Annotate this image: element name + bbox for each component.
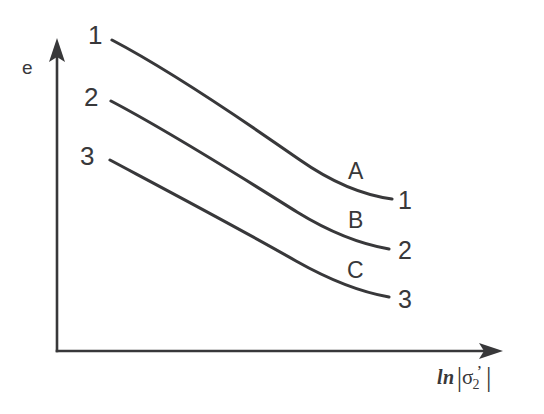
curve-b-end-label: 2 xyxy=(398,238,412,263)
y-axis-label: e xyxy=(22,58,33,77)
figure-canvas: e 1 2 3 A B C 1 2 3 ln|σ2’| xyxy=(0,0,544,414)
x-axis-label-bar-close: | xyxy=(486,362,491,392)
curve-c-start-label: 3 xyxy=(80,143,94,169)
x-axis-label-bar-open: | xyxy=(457,362,462,392)
curve-c-end-label: 3 xyxy=(398,287,412,312)
curve-b-start-label: 2 xyxy=(84,84,98,110)
curve-a-end-label: 1 xyxy=(398,188,412,213)
x-axis-label: ln|σ2’| xyxy=(437,362,492,392)
x-axis-label-prime: ’ xyxy=(476,362,482,381)
curve-c-label: C xyxy=(347,259,364,282)
curve-a-label: A xyxy=(348,160,363,183)
chart-plot-area xyxy=(0,0,544,414)
curve-a-start-label: 1 xyxy=(88,22,102,48)
curve-b-label: B xyxy=(348,209,363,232)
x-axis-label-ln: ln xyxy=(437,366,457,388)
